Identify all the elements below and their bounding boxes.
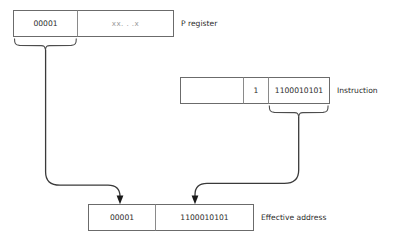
instruction-brace [269,106,328,117]
instruction-label: Instruction [337,86,378,95]
effective-address-cell-1-value: 1100010101 [180,213,228,222]
effective-address-diagram: 00001 xx. . .x P register 1 1100010101 I… [0,0,402,241]
p-register-cell-0-value: 00001 [33,19,57,28]
p-register-label: P register [181,19,218,28]
instruction-cell-2-value: 1100010101 [275,86,323,95]
flow-instruction-to-effective-address [192,116,299,204]
p-register-cell-1-value: xx. . .x [112,19,140,28]
instruction-group: 1 1100010101 Instruction [181,78,378,104]
p-register-brace [15,39,77,50]
arrowhead-to-effective-address-low [192,196,199,205]
effective-address-label: Effective address [261,213,326,222]
flow-p-register-to-effective-address [46,49,124,204]
arrowhead-to-effective-address-high [117,196,124,205]
diagram-canvas: 00001 xx. . .x P register 1 1100010101 I… [0,0,402,241]
p-register-group: 00001 xx. . .x P register [14,11,219,37]
instruction-cell-1-value: 1 [254,86,259,95]
effective-address-group: 00001 1100010101 Effective address [89,205,327,231]
effective-address-cell-0-value: 00001 [110,213,134,222]
